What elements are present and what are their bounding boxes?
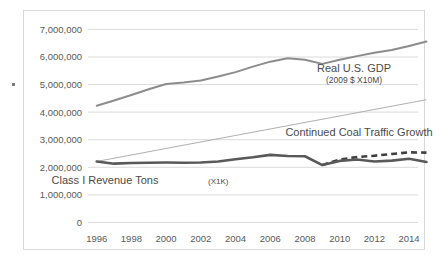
annotation-continued-coal-growth: Continued Coal Traffic Growth (285, 126, 432, 138)
x-tick-2002: 2002 (190, 233, 211, 244)
x-tick-1998: 1998 (121, 233, 142, 244)
y-tick-1000000: 1,000,000 (40, 189, 82, 200)
y-tick-5000000: 5,000,000 (40, 79, 82, 90)
y-tick-0: 0 (77, 217, 82, 228)
y-tick-2000000: 2,000,000 (40, 162, 82, 173)
x-tick-2004: 2004 (225, 233, 246, 244)
chart-figure: 7,000,000 6,000,000 5,000,000 4,000,000 … (0, 0, 448, 273)
y-axis-tick-labels: 7,000,000 6,000,000 5,000,000 4,000,000 … (40, 24, 82, 228)
annotation-real-us-gdp: Real U.S. GDP (2009 $ X10M) (317, 62, 391, 85)
y-tick-3000000: 3,000,000 (40, 134, 82, 145)
gdp-label-line2: (2009 $ X10M) (326, 75, 382, 85)
line-chart-plot: 7,000,000 6,000,000 5,000,000 4,000,000 … (0, 0, 448, 273)
y-tick-6000000: 6,000,000 (40, 51, 82, 62)
x-tick-2010: 2010 (329, 233, 350, 244)
y-tick-7000000: 7,000,000 (40, 24, 82, 35)
x-tick-2006: 2006 (260, 233, 281, 244)
x-tick-2012: 2012 (364, 233, 385, 244)
y-tick-4000000: 4,000,000 (40, 107, 82, 118)
x-axis-tick-labels: 1996 1998 2000 2002 2004 2006 2008 2010 … (86, 233, 420, 244)
class1-label-unit: (X1K) (208, 177, 229, 186)
x-tick-1996: 1996 (86, 233, 107, 244)
annotation-class-i-revenue-tons: Class I Revenue Tons (X1K) (52, 174, 229, 186)
x-tick-2014: 2014 (399, 233, 420, 244)
gdp-label-line1: Real U.S. GDP (317, 62, 391, 74)
class1-label-main: Class I Revenue Tons (52, 174, 159, 186)
x-tick-2008: 2008 (294, 233, 315, 244)
x-tick-2000: 2000 (156, 233, 177, 244)
